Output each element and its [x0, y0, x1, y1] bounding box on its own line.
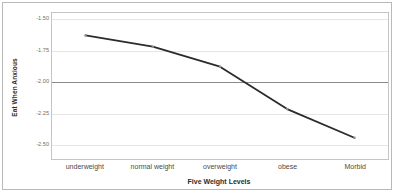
chart-frame: Eat When Anxious -1.50-1.75-2.00-2.25-2.…	[2, 2, 392, 190]
y-axis-tick-label: -1.75	[15, 47, 49, 53]
x-axis-tick-labels: underweightnormal weightoverweightobeseM…	[3, 163, 396, 177]
x-axis-tick-label: normal weight	[131, 163, 175, 170]
line-series	[52, 13, 388, 159]
x-axis-tick-label: underweight	[66, 163, 104, 170]
y-axis-tick-label: -2.25	[15, 110, 49, 116]
x-axis-title: Five Weight Levels	[49, 178, 389, 185]
series-line	[86, 35, 355, 137]
data-point-marker	[152, 46, 154, 48]
x-axis-tick-label: overweight	[203, 163, 237, 170]
data-point-marker	[219, 66, 221, 68]
data-point-marker	[353, 137, 355, 139]
data-point-marker	[85, 34, 87, 36]
x-axis-tick-label: Morbid	[344, 163, 365, 170]
plot-area	[51, 12, 389, 159]
x-axis-line	[51, 159, 389, 160]
x-axis-tick-label: obese	[278, 163, 297, 170]
y-axis-tick-label: -2.00	[15, 78, 49, 84]
y-axis-tick-label: -1.50	[15, 15, 49, 21]
y-axis-tick-label: -2.50	[15, 141, 49, 147]
data-point-marker	[286, 108, 288, 110]
